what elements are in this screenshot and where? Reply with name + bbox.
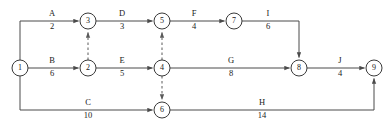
node-7-label: 7: [232, 16, 236, 25]
edge-C-name: C: [85, 97, 91, 107]
node-2-label: 2: [86, 63, 90, 72]
edge-B-name: B: [49, 55, 55, 65]
node-6[interactable]: 6: [154, 102, 170, 118]
edge-I-name: I: [267, 8, 270, 18]
node-4-label: 4: [160, 63, 164, 72]
node-4[interactable]: 4: [154, 60, 170, 76]
edge-path-H: [170, 79, 374, 111]
edge-I-weight: 6: [266, 21, 270, 31]
node-3-label: 3: [86, 16, 90, 25]
edge-label-B: B 6: [49, 55, 55, 78]
node-6-label: 6: [160, 105, 164, 114]
edge-label-A: A 2: [49, 8, 56, 31]
edge-H-name: H: [259, 97, 265, 107]
edge-label-D: D 3: [119, 8, 125, 31]
edge-label-H: H 14: [258, 97, 267, 120]
edge-A-name: A: [49, 8, 56, 18]
edge-label-E: E 5: [119, 55, 124, 78]
edge-D-weight: 3: [120, 21, 124, 31]
node-1-label: 1: [18, 63, 22, 72]
edge-label-F: F 4: [192, 8, 197, 31]
edge-G-name: G: [228, 55, 234, 65]
edge-D-name: D: [119, 8, 125, 18]
edge-J-name: J: [338, 55, 342, 65]
network-diagram-svg: 1 2 3 4 5 6 7 8: [0, 0, 389, 130]
edge-A-weight: 2: [50, 21, 54, 31]
node-8[interactable]: 8: [291, 60, 307, 76]
node-9[interactable]: 9: [366, 60, 382, 76]
node-7[interactable]: 7: [226, 13, 242, 29]
edge-F-weight: 4: [192, 21, 197, 31]
edge-path-I: [242, 21, 299, 58]
edge-label-C: C 10: [84, 97, 93, 120]
edge-label-J: J 4: [338, 55, 343, 78]
edge-B-weight: 6: [50, 68, 54, 78]
edge-J-weight: 4: [338, 68, 343, 78]
edge-E-name: E: [119, 55, 124, 65]
edge-G-weight: 8: [229, 68, 233, 78]
node-1[interactable]: 1: [12, 60, 28, 76]
edge-H-weight: 14: [258, 110, 267, 120]
edge-F-name: F: [192, 8, 197, 18]
network-diagram-canvas: 1 2 3 4 5 6 7 8: [0, 0, 389, 130]
edge-C-weight: 10: [84, 110, 93, 120]
edge-label-I: I 6: [266, 8, 270, 31]
node-2[interactable]: 2: [80, 60, 96, 76]
edge-E-weight: 5: [120, 68, 124, 78]
node-3[interactable]: 3: [80, 13, 96, 29]
node-5-label: 5: [160, 16, 164, 25]
node-5[interactable]: 5: [154, 13, 170, 29]
edge-label-G: G 8: [228, 55, 234, 78]
node-9-label: 9: [372, 63, 376, 72]
node-8-label: 8: [297, 63, 301, 72]
